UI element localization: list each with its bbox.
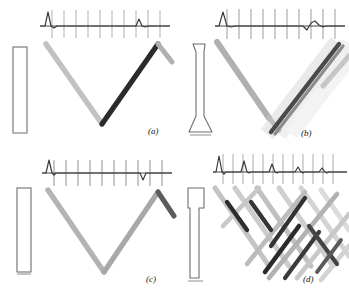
a-scan-trace-d (213, 150, 347, 190)
ray-diagram-c (42, 186, 174, 278)
panel-a: (a) (0, 0, 174, 148)
ray-diagram-b (213, 40, 349, 134)
ray-diagram-a (40, 40, 172, 132)
specimen-d (183, 186, 213, 286)
a-scan-trace-a (40, 6, 170, 42)
specimen-c (14, 186, 40, 278)
panel-d: (d) (175, 148, 349, 296)
panel-b: (b) (175, 0, 349, 148)
panel-label-d: (d) (303, 274, 314, 284)
a-scan-trace-b (215, 6, 345, 42)
a-scan-trace-c (42, 156, 172, 190)
panel-label-a: (a) (148, 126, 159, 136)
panel-label-c: (c) (146, 274, 156, 284)
panel-label-b: (b) (301, 128, 312, 138)
figure-container: (a) (0, 0, 349, 296)
ray-diagram-d (213, 186, 349, 280)
specimen-a (10, 45, 36, 137)
panel-c: (c) (0, 148, 174, 296)
